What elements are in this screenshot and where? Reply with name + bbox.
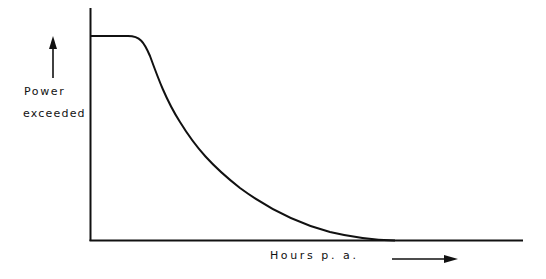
y-axis-label-line1: Power xyxy=(24,85,65,98)
y-axis-label-line2: exceeded xyxy=(23,107,86,120)
x-axis-label: Hours p. a. xyxy=(270,249,359,262)
right-arrow-icon xyxy=(392,255,458,263)
up-arrow-icon xyxy=(49,36,57,78)
power-duration-chart xyxy=(0,0,546,279)
power-duration-curve xyxy=(91,36,395,241)
